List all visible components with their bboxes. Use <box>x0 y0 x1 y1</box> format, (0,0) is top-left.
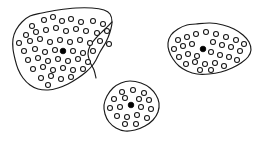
data-point <box>49 74 54 79</box>
data-point <box>224 35 229 40</box>
data-point <box>44 28 49 33</box>
cluster-diagram-canvas <box>0 0 261 141</box>
data-point <box>54 26 59 31</box>
data-point <box>139 105 144 110</box>
data-point <box>74 27 79 32</box>
data-point <box>79 20 84 25</box>
data-point <box>194 32 199 37</box>
data-point <box>120 90 125 95</box>
data-point <box>203 62 208 67</box>
data-point <box>46 59 51 64</box>
data-point <box>86 60 91 65</box>
data-point <box>107 42 112 47</box>
data-point <box>234 38 239 43</box>
data-point <box>229 45 234 50</box>
data-point <box>198 68 203 73</box>
data-point <box>33 47 38 52</box>
data-point <box>134 122 139 127</box>
data-point <box>235 58 240 63</box>
data-point <box>172 47 177 52</box>
clusters-layer <box>13 8 251 131</box>
data-point <box>123 122 128 127</box>
data-point <box>181 44 186 49</box>
data-point <box>17 41 22 46</box>
data-point <box>214 32 219 37</box>
data-point <box>177 55 182 60</box>
data-point <box>81 51 86 56</box>
data-point <box>142 91 147 96</box>
data-point <box>34 30 39 35</box>
data-point <box>176 38 181 43</box>
data-point <box>53 48 58 53</box>
data-point <box>227 55 232 60</box>
data-point <box>81 67 86 72</box>
data-point <box>222 64 227 69</box>
data-point <box>51 68 56 73</box>
data-point <box>115 114 120 119</box>
data-point <box>78 38 83 43</box>
data-point <box>123 96 128 101</box>
data-point <box>95 31 100 36</box>
data-point <box>42 18 47 23</box>
data-point <box>43 50 48 55</box>
data-point <box>98 39 103 44</box>
data-point <box>64 29 69 34</box>
data-point <box>68 40 73 45</box>
data-point <box>211 40 216 45</box>
data-point <box>105 29 110 34</box>
data-point <box>195 54 200 59</box>
data-point <box>38 37 43 42</box>
data-point <box>71 49 76 54</box>
data-point <box>39 76 44 81</box>
data-point <box>220 43 225 48</box>
data-point <box>22 49 27 54</box>
data-point <box>186 52 191 57</box>
data-point <box>137 97 142 102</box>
data-point <box>108 106 113 111</box>
data-point <box>56 57 61 62</box>
data-point <box>88 41 93 46</box>
data-point <box>51 15 56 20</box>
data-point <box>48 40 53 45</box>
data-point <box>69 75 74 80</box>
data-point <box>58 38 63 43</box>
cluster-center-point <box>200 46 206 52</box>
medium-right-cluster <box>168 23 251 74</box>
data-point <box>112 97 117 102</box>
data-point <box>185 35 190 40</box>
data-point <box>84 29 89 34</box>
data-point <box>36 56 41 61</box>
data-point <box>59 77 64 82</box>
data-point <box>26 58 31 63</box>
data-point <box>135 113 140 118</box>
small-bottom-cluster <box>104 81 159 131</box>
data-point <box>31 67 36 72</box>
data-point <box>147 98 152 103</box>
cluster-diagram-svg <box>0 0 261 141</box>
data-point <box>60 19 65 24</box>
data-point <box>69 17 74 22</box>
data-point <box>91 49 96 54</box>
data-point <box>149 107 154 112</box>
large-left-cluster <box>13 8 112 90</box>
data-point <box>204 30 209 35</box>
data-point <box>131 88 136 93</box>
data-point <box>28 39 33 44</box>
data-point <box>209 68 214 73</box>
data-point <box>184 62 189 67</box>
data-point <box>66 59 71 64</box>
data-point <box>118 105 123 110</box>
data-point <box>125 115 130 120</box>
cluster-center-point <box>128 102 134 108</box>
data-point <box>30 24 35 29</box>
data-point <box>213 61 218 66</box>
data-point <box>24 33 29 38</box>
data-point <box>209 50 214 55</box>
data-point <box>76 57 81 62</box>
data-point <box>145 116 150 121</box>
data-point <box>190 42 195 47</box>
data-point <box>101 22 106 27</box>
data-point <box>91 19 96 24</box>
data-point <box>242 42 247 47</box>
data-point <box>41 65 46 70</box>
